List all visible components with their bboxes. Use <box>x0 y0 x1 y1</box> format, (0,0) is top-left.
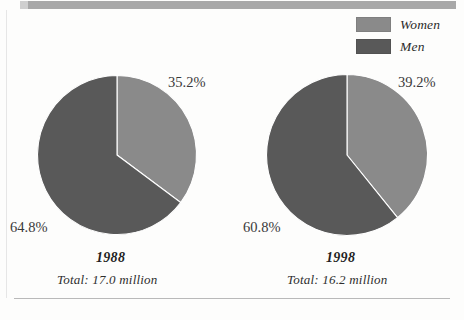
scan-bottom-rule <box>14 298 450 299</box>
pie-1998-total-label: Total: 16.2 million <box>287 272 387 288</box>
chart-page: Women Men 35.2% 64.8% 1988 Total: 17.0 m… <box>0 0 464 320</box>
pie-1998-men-percent: 60.8% <box>243 219 280 236</box>
pie-1988-men-percent: 64.8% <box>10 219 47 236</box>
pie-1988-year-label: 1988 <box>96 250 125 266</box>
pie-1988-total-label: Total: 17.0 million <box>57 272 157 288</box>
pie-1998-women-percent: 39.2% <box>398 74 435 91</box>
pie-1998-year-label: 1998 <box>326 250 355 266</box>
pie-chart-1988 <box>37 75 196 234</box>
pie-1988-women-percent: 35.2% <box>168 74 205 91</box>
pie-chart-1998 <box>267 75 428 236</box>
